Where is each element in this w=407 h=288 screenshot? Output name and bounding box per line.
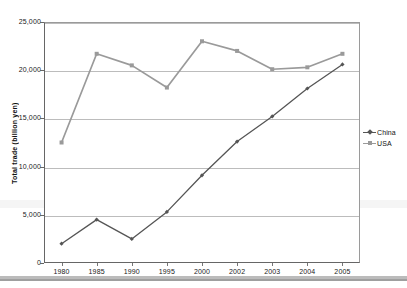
series-china xyxy=(59,62,344,246)
legend-item-usa[interactable]: USA xyxy=(363,138,407,148)
series-usa xyxy=(60,39,345,144)
data-point-marker xyxy=(130,63,134,67)
data-point-marker xyxy=(165,86,169,90)
legend-swatch-icon xyxy=(363,139,376,148)
data-point-marker xyxy=(235,49,239,53)
series-line xyxy=(62,64,343,243)
data-point-marker xyxy=(60,141,64,145)
data-point-marker xyxy=(200,39,204,43)
legend-label: China xyxy=(376,129,396,136)
legend-item-china[interactable]: China xyxy=(363,127,407,137)
legend-label: USA xyxy=(376,140,392,147)
data-point-marker xyxy=(95,52,99,56)
line-chart: Total trade (billion yen) 05,00010,00015… xyxy=(0,0,407,288)
series-line xyxy=(62,41,343,142)
data-point-marker xyxy=(305,65,309,69)
series-layer xyxy=(0,0,407,288)
data-point-marker xyxy=(340,52,344,56)
legend-swatch-icon xyxy=(363,128,376,137)
chart-legend: ChinaUSA xyxy=(363,127,407,149)
data-point-marker xyxy=(270,67,274,71)
